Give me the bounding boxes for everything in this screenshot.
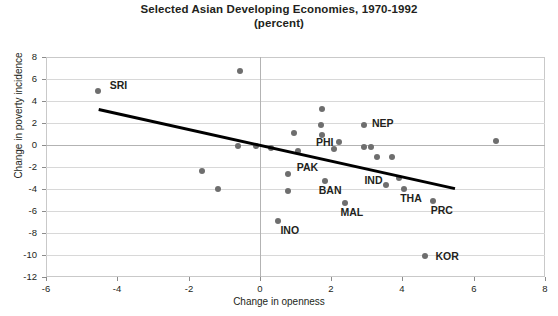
data-point [493,138,499,144]
gridline-horizontal [46,167,545,168]
data-point-label: PRC [431,204,453,216]
data-point [319,106,325,112]
data-point [383,182,389,188]
y-axis-tick-mark [42,255,46,256]
x-axis-tick-label: 4 [382,283,422,294]
y-axis-tick-mark [42,167,46,168]
x-axis-tick-mark [402,277,403,281]
data-point [95,88,101,94]
x-axis-tick-mark [46,277,47,281]
x-axis-tick-label: -4 [97,283,137,294]
data-point [235,143,241,149]
y-axis-tick-mark [42,79,46,80]
y-axis-tick-label: -8 [0,227,37,238]
x-axis-tick-label: 2 [311,283,351,294]
x-axis-tick-mark [474,277,475,281]
gridline-horizontal [46,211,545,212]
y-axis-tick-label: -12 [0,271,37,282]
y-axis-tick-mark [42,101,46,102]
data-point [422,253,428,259]
data-point [336,139,342,145]
x-axis-label: Change in openness [0,296,558,307]
y-axis-tick-label: -10 [0,249,37,260]
data-point-label: BAN [319,184,342,196]
gridline-vertical-zero [260,57,261,277]
y-axis-tick-mark [42,145,46,146]
x-axis-tick-label: 6 [454,283,494,294]
y-axis-tick-mark [42,189,46,190]
x-axis-tick-label: 8 [525,283,558,294]
gridline-horizontal [46,123,545,124]
x-axis-tick-mark [545,277,546,281]
gridline-horizontal [46,101,545,102]
y-axis-label: Change in poverty incidence [13,6,24,226]
data-point [215,186,221,192]
data-point [285,171,291,177]
data-point [291,130,297,136]
data-point-label: INO [280,224,299,236]
gridline-horizontal [46,145,545,146]
gridline-horizontal [46,255,545,256]
data-point-label: PHI [316,136,334,148]
x-axis-tick-mark [189,277,190,281]
x-axis-tick-mark [331,277,332,281]
data-point-label: MAL [340,206,363,218]
chart-title-line-2: (percent) [0,16,558,30]
y-axis-tick-mark [42,211,46,212]
gridline-horizontal [46,189,545,190]
data-point-label: NEP [372,117,394,129]
y-axis-tick-mark [42,123,46,124]
x-axis-tick-label: -2 [169,283,209,294]
y-axis-tick-mark [42,233,46,234]
chart-root: Selected Asian Developing Economies, 197… [0,0,558,316]
data-point-label: PAK [297,161,318,173]
chart-title: Selected Asian Developing Economies, 197… [0,2,558,30]
x-axis-tick-mark [117,277,118,281]
data-point-label: IND [364,174,382,186]
x-axis-tick-label: -6 [26,283,66,294]
data-point-label: SRI [110,79,128,91]
y-axis-tick-mark [42,57,46,58]
chart-title-line-1: Selected Asian Developing Economies, 197… [0,2,558,16]
x-axis-tick-label: 0 [240,283,280,294]
x-axis-tick-mark [260,277,261,281]
data-point-label: KOR [436,250,459,262]
data-point-label: THA [400,192,422,204]
